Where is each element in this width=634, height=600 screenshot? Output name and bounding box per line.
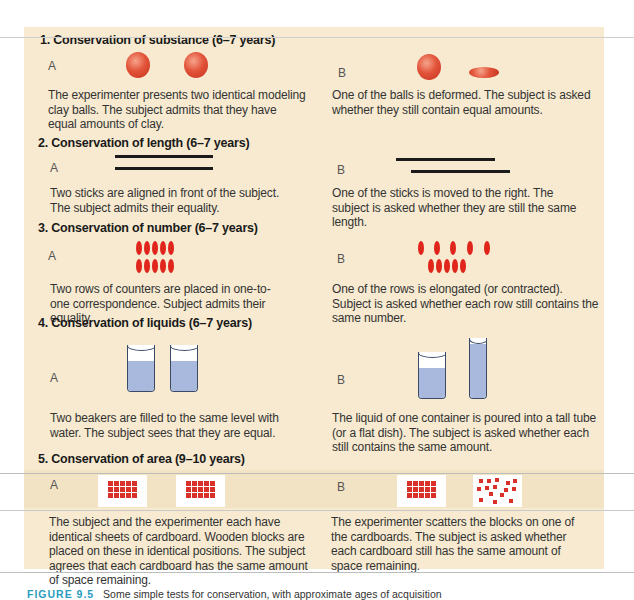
section-2-text-a: Two sticks are aligned in front of the s… (50, 186, 290, 215)
beaker-icon (127, 345, 155, 392)
section-5-label-b: B (337, 480, 345, 494)
section-1-label-a: A (48, 59, 56, 73)
clay-ball-icon (417, 54, 441, 80)
divider (0, 37, 634, 38)
section-1-text-a: The experimenter presents two identical … (48, 88, 308, 132)
cardboard-blocks-icon (397, 475, 446, 507)
beaker-icon (170, 345, 198, 392)
section-3-text-b: One of the rows is elongated (or contrac… (332, 282, 602, 326)
section-5-text-b: The experimenter scatters the blocks on … (331, 515, 591, 573)
section-3-label-a: A (48, 249, 56, 263)
section-5-title: 5. Conservation of area (9–10 years) (38, 452, 245, 466)
section-4-title: 4. Conservation of liquids (6–7 years) (38, 316, 252, 330)
section-3-title: 3. Conservation of number (6–7 years) (38, 221, 258, 235)
divider (0, 510, 634, 511)
tall-tube-icon (469, 338, 487, 399)
figure-caption: FIGURE 9.5 Some simple tests for conserv… (27, 588, 442, 600)
section-5-text-a: The subject and the experimenter each ha… (49, 515, 319, 588)
divider (0, 473, 634, 474)
clay-ball-icon (126, 52, 150, 78)
stick-icon (115, 155, 213, 158)
figure-caption-label: FIGURE 9.5 (27, 588, 94, 600)
beaker-icon (418, 352, 446, 399)
section-4-label-a: A (50, 371, 58, 385)
section-2-title: 2. Conservation of length (6–7 years) (38, 136, 249, 150)
section-2-text-b: One of the sticks is moved to the right.… (332, 186, 592, 230)
figure-caption-text: Some simple tests for conservation, with… (103, 588, 442, 600)
section-2-label-b: B (337, 163, 345, 177)
clay-ball-icon (184, 52, 208, 78)
section-1-text-b: One of the balls is deformed. The subjec… (332, 88, 592, 117)
section-5-label-a: A (50, 478, 58, 492)
section-4-label-b: B (337, 373, 345, 387)
stick-icon (115, 167, 213, 170)
section-4-text-a: Two beakers are filled to the same level… (50, 411, 300, 440)
cardboard-blocks-icon (176, 475, 225, 507)
section-4-text-b: The liquid of one container is poured in… (332, 411, 602, 455)
section-1-label-b: B (338, 66, 346, 80)
divider (0, 572, 634, 573)
section-2-label-a: A (50, 161, 58, 175)
stick-moved-icon (411, 170, 510, 173)
stick-icon (396, 158, 495, 161)
section-3-label-b: B (337, 252, 345, 266)
flattened-clay-icon (469, 67, 499, 78)
cardboard-blocks-icon (98, 475, 147, 507)
cardboard-scattered-blocks-icon (473, 475, 522, 507)
section-1-title: 1. Conservation of substance (6–7 years) (40, 33, 275, 47)
